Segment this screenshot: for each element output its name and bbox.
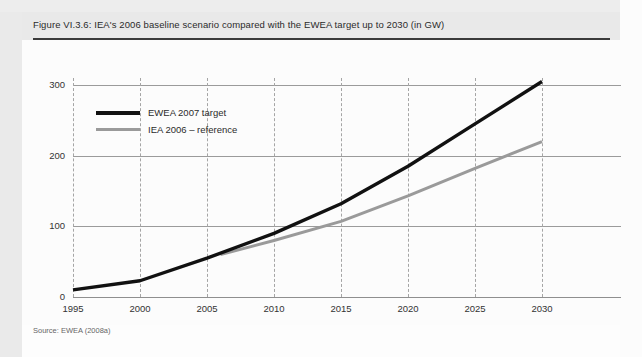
- x-tick-label-2005: 2005: [187, 303, 227, 314]
- x-tick-label-2020: 2020: [388, 303, 428, 314]
- gridline-y-300: [73, 85, 621, 86]
- gridline-x-2025: [475, 78, 476, 297]
- x-tick-label-2000: 2000: [120, 303, 160, 314]
- figure-page: Figure VI.3.6: IEA's 2006 baseline scena…: [0, 0, 642, 357]
- gridline-x-2020: [408, 78, 409, 297]
- page-left-margin: [0, 0, 22, 357]
- legend-item-ewea: EWEA 2007 target: [96, 104, 237, 121]
- gridline-x-2015: [341, 78, 342, 297]
- x-tick-label-2010: 2010: [254, 303, 294, 314]
- legend-label-ewea: EWEA 2007 target: [148, 107, 226, 118]
- page-top-margin: [0, 0, 642, 12]
- figure-caption: Figure VI.3.6: IEA's 2006 baseline scena…: [33, 19, 613, 30]
- gridline-x-2010: [274, 78, 275, 297]
- legend-swatch-iea-icon: [96, 128, 140, 131]
- chart-legend: EWEA 2007 target IEA 2006 – reference: [96, 104, 237, 138]
- legend-label-iea: IEA 2006 – reference: [148, 124, 237, 135]
- gridline-y-200: [73, 156, 621, 157]
- x-tick-label-2015: 2015: [321, 303, 361, 314]
- y-tick-label-300: 300: [31, 79, 65, 90]
- legend-item-iea: IEA 2006 – reference: [96, 121, 237, 138]
- y-tick-label-200: 200: [31, 150, 65, 161]
- x-tick-label-1995: 1995: [53, 303, 93, 314]
- x-tick-label-2030: 2030: [522, 303, 562, 314]
- legend-swatch-ewea-icon: [96, 111, 140, 115]
- y-tick-label-100: 100: [31, 220, 65, 231]
- x-axis-line: [73, 297, 621, 298]
- x-tick-label-2025: 2025: [455, 303, 495, 314]
- gridline-y-100: [73, 226, 621, 227]
- figure-source: Source: EWEA (2008a): [33, 326, 111, 335]
- gridline-x-1995: [73, 78, 74, 297]
- chart-card: [22, 40, 620, 325]
- gridline-x-2030: [542, 78, 543, 297]
- page-right-margin: [620, 0, 642, 357]
- y-tick-label-0: 0: [31, 291, 65, 302]
